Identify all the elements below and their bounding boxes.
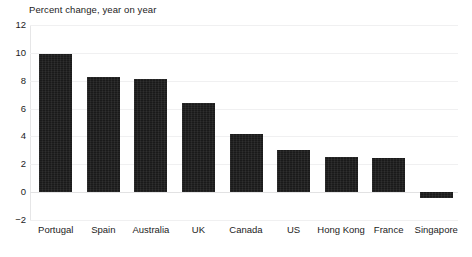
plot-area <box>30 25 458 220</box>
bar-us <box>277 150 310 192</box>
chart-title: Percent change, year on year <box>29 4 156 15</box>
x-tick-label-france: France <box>374 224 404 236</box>
bar-spain <box>87 77 120 193</box>
y-tick-label: 4 <box>2 132 26 142</box>
x-axis-tick-labels: PortugalSpainAustraliaUKCanadaUSHong Kon… <box>30 224 458 240</box>
x-tick-label-uk: UK <box>192 224 205 236</box>
bar-australia <box>134 79 167 192</box>
gridline-neg2 <box>30 220 458 221</box>
bars-group <box>30 25 458 220</box>
x-tick-label-hong-kong: Hong Kong <box>317 224 365 236</box>
x-tick-label-us: US <box>287 224 300 236</box>
y-tick-label: −2 <box>2 215 26 225</box>
y-tick-label: 10 <box>2 48 26 58</box>
y-tick-label: 8 <box>2 76 26 86</box>
x-tick-label-portugal: Portugal <box>38 224 73 236</box>
bar-portugal <box>39 54 72 193</box>
x-tick-label-australia: Australia <box>132 224 169 236</box>
y-tick-label: 2 <box>2 160 26 170</box>
bar-canada <box>230 134 263 193</box>
x-tick-label-singapore: Singapore <box>415 224 458 236</box>
y-tick-label: 0 <box>2 187 26 197</box>
bar-hong-kong <box>325 157 358 192</box>
bar-singapore <box>420 192 453 198</box>
bar-uk <box>182 103 215 192</box>
bar-chart: Percent change, year on year −2024681012… <box>0 0 472 257</box>
y-tick-label: 12 <box>2 20 26 30</box>
y-tick-label: 6 <box>2 104 26 114</box>
bar-france <box>372 158 405 192</box>
y-axis-tick-labels: −2024681012 <box>0 0 26 257</box>
x-tick-label-spain: Spain <box>91 224 115 236</box>
x-tick-label-canada: Canada <box>229 224 262 236</box>
